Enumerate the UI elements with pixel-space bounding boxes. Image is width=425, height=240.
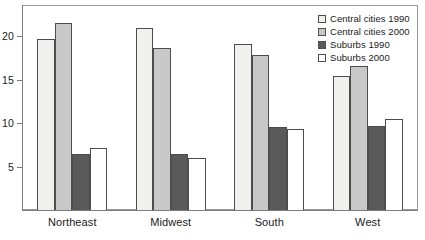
x-axis-group-label: Midwest — [122, 216, 221, 228]
bar — [136, 28, 154, 210]
bar — [188, 158, 206, 210]
y-axis-tick-label: 5 — [8, 162, 14, 173]
bar — [252, 55, 270, 210]
bar — [287, 129, 305, 210]
bar — [90, 148, 108, 210]
bar — [153, 48, 171, 210]
legend-swatch-icon — [318, 54, 326, 62]
bar — [350, 66, 368, 210]
bar — [385, 119, 403, 210]
legend-swatch-icon — [318, 28, 326, 36]
x-axis-group-label: South — [220, 216, 319, 228]
x-axis-line — [22, 210, 418, 211]
chart-legend: Central cities 1990Central cities 2000Su… — [318, 13, 410, 64]
y-axis-tick-label: 15 — [2, 75, 14, 86]
x-axis-group-label: Northeast — [23, 216, 122, 228]
legend-item: Suburbs 2000 — [318, 52, 410, 64]
legend-item: Central cities 1990 — [318, 13, 410, 25]
bar — [333, 76, 351, 210]
bar-chart: 5101520 Central cities 1990Central citie… — [0, 0, 425, 240]
legend-item-label: Suburbs 1990 — [330, 40, 390, 50]
bar — [234, 44, 252, 210]
legend-item-label: Central cities 2000 — [330, 27, 410, 37]
legend-swatch-icon — [318, 41, 326, 49]
bar — [55, 23, 73, 210]
legend-swatch-icon — [318, 15, 326, 23]
bar — [37, 39, 55, 210]
y-axis-tick-label: 20 — [2, 31, 14, 42]
bar — [269, 127, 287, 210]
legend-item-label: Suburbs 2000 — [330, 53, 390, 63]
bar — [368, 126, 386, 210]
legend-item-label: Central cities 1990 — [330, 14, 410, 24]
bar — [72, 154, 90, 210]
x-axis-group-label: West — [319, 216, 418, 228]
y-axis-tick-label: 10 — [2, 118, 14, 129]
bar — [171, 154, 189, 210]
legend-item: Suburbs 1990 — [318, 39, 410, 51]
legend-item: Central cities 2000 — [318, 26, 410, 38]
